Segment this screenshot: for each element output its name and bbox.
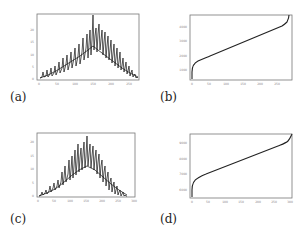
panel-label-d: (d) xyxy=(160,212,177,226)
svg-text:50: 50 xyxy=(207,82,211,86)
chart-a-y-ticks: 0 5 10 15 20 xyxy=(30,28,34,81)
chart-b-y-ticks: 1000 2000 3000 4000 xyxy=(179,25,187,72)
svg-text:200: 200 xyxy=(99,199,105,203)
svg-text:20: 20 xyxy=(30,28,34,32)
svg-text:200: 200 xyxy=(255,200,261,204)
svg-text:0: 0 xyxy=(32,77,34,81)
svg-text:5: 5 xyxy=(32,65,34,69)
chart-c-y-ticks: 0 5 10 15 20 xyxy=(30,140,34,198)
chart-c-frame xyxy=(37,133,135,197)
panel-label-a: (a) xyxy=(10,90,27,104)
svg-text:10: 10 xyxy=(30,167,34,171)
svg-text:15: 15 xyxy=(30,40,34,44)
svg-text:3000: 3000 xyxy=(179,39,187,43)
chart-panel-a: 0 5 10 15 20 0 50 100 150 200 250 (a) xyxy=(0,0,150,120)
panel-label-b: (b) xyxy=(160,90,177,104)
svg-text:250: 250 xyxy=(126,82,132,86)
chart-b-frame xyxy=(190,15,292,80)
svg-text:250: 250 xyxy=(274,82,280,86)
svg-text:150: 150 xyxy=(83,199,89,203)
svg-text:200: 200 xyxy=(257,82,263,86)
svg-text:150: 150 xyxy=(90,82,96,86)
svg-text:9000: 9000 xyxy=(179,141,187,145)
svg-text:200: 200 xyxy=(108,82,114,86)
svg-text:300: 300 xyxy=(131,199,137,203)
chart-panel-b: 1000 2000 3000 4000 0 50 100 150 200 250… xyxy=(150,0,300,120)
chart-panel-c: 0 5 10 15 20 0 50 100 150 200 250 300 (c… xyxy=(0,120,150,240)
chart-d-y-ticks: 6000 7000 8000 9000 xyxy=(179,141,187,192)
svg-text:8000: 8000 xyxy=(179,157,187,161)
svg-text:4000: 4000 xyxy=(179,25,187,29)
svg-text:20: 20 xyxy=(30,140,34,144)
svg-text:7000: 7000 xyxy=(179,172,187,176)
svg-text:0: 0 xyxy=(37,199,39,203)
chart-a-x-ticks: 0 50 100 150 200 250 xyxy=(38,82,132,86)
svg-text:100: 100 xyxy=(223,82,229,86)
svg-text:50: 50 xyxy=(52,199,56,203)
chart-c-x-ticks: 0 50 100 150 200 250 300 xyxy=(37,199,137,203)
svg-text:150: 150 xyxy=(238,200,244,204)
svg-text:300: 300 xyxy=(287,200,293,204)
svg-text:250: 250 xyxy=(271,200,277,204)
chart-d-x-ticks: 0 50 100 150 200 250 300 xyxy=(191,200,293,204)
svg-text:0: 0 xyxy=(32,194,34,198)
svg-text:100: 100 xyxy=(67,199,73,203)
svg-text:10: 10 xyxy=(30,53,34,57)
panel-label-c: (c) xyxy=(10,212,26,226)
chart-panel-d: 6000 7000 8000 9000 0 50 100 150 200 250… xyxy=(150,120,300,240)
chart-b-x-ticks: 0 50 100 150 200 250 xyxy=(191,82,280,86)
svg-text:250: 250 xyxy=(115,199,121,203)
svg-text:100: 100 xyxy=(72,82,78,86)
svg-text:50: 50 xyxy=(206,200,210,204)
svg-text:15: 15 xyxy=(30,154,34,158)
svg-text:0: 0 xyxy=(191,200,193,204)
svg-text:5: 5 xyxy=(32,181,34,185)
svg-text:150: 150 xyxy=(240,82,246,86)
svg-text:6000: 6000 xyxy=(179,188,187,192)
svg-text:0: 0 xyxy=(38,82,40,86)
svg-text:1000: 1000 xyxy=(179,68,187,72)
chart-d-frame xyxy=(190,134,292,198)
svg-text:100: 100 xyxy=(222,200,228,204)
svg-text:2000: 2000 xyxy=(179,54,187,58)
svg-text:0: 0 xyxy=(191,82,193,86)
svg-text:50: 50 xyxy=(55,82,59,86)
